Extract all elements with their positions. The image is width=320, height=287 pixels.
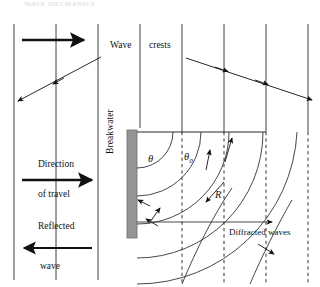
radial-arrow <box>138 200 150 206</box>
shadow-zone-dashed-lines <box>182 132 308 284</box>
incident-ray <box>18 57 101 101</box>
incident-ray-midarrow <box>53 78 64 84</box>
diffracted-wave-arcs <box>137 132 297 284</box>
reflected-label: Reflected <box>38 222 74 232</box>
diffracted-arc <box>137 132 173 168</box>
incident-ray-line <box>18 57 101 101</box>
diffracted-arc <box>137 132 263 258</box>
wave-crests-label-word2: crests <box>149 41 171 51</box>
bold-arrows <box>22 40 92 248</box>
diffracted-waves-label: Diffracted waves <box>229 228 291 237</box>
of-travel-label: of travel <box>38 190 70 200</box>
incident-ray-right-mid1 <box>215 67 228 72</box>
diffracted-arc <box>137 132 229 224</box>
incident-ray-right <box>186 58 312 100</box>
radial-arrow <box>206 150 210 170</box>
diffracted-waves-leader <box>258 244 274 254</box>
theta-zero-subscript: 0 <box>189 157 193 165</box>
figure-canvas: WAVE MECHANICS <box>0 0 320 287</box>
wave-crests-label-word1: Wave <box>110 41 131 51</box>
radial-arrow <box>146 219 158 226</box>
incident-ray-right-line <box>186 58 312 100</box>
direction-label: Direction <box>38 160 74 170</box>
diffracted-arc <box>137 132 297 284</box>
radius-label: R <box>215 190 221 201</box>
breakwater-structure <box>127 130 137 238</box>
radial-arrow <box>150 208 160 222</box>
wave-crest-lines <box>14 24 308 280</box>
wave-label: wave <box>40 262 60 272</box>
breakwater-label: Breakwater <box>106 109 116 154</box>
bent-crest <box>182 188 232 284</box>
theta-angle-label: θ <box>148 154 153 165</box>
theta-zero-angle-label: θ0 <box>184 152 193 165</box>
